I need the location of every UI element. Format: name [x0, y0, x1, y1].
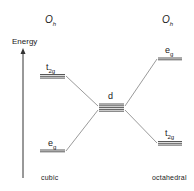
cubic-eg-level	[40, 150, 65, 152]
free-ion-d-label: d	[108, 91, 113, 101]
energy-axis-label: Energy	[12, 37, 37, 46]
energy-axis-arrow	[21, 48, 26, 178]
right-point-group-label: Oh	[162, 14, 173, 27]
cubic-caption: cubic	[41, 174, 58, 181]
octahedral-eg-label: eg	[165, 45, 173, 57]
cubic-t2g-level	[40, 75, 65, 79]
left-point-group-label: Oh	[45, 14, 56, 27]
free-ion-d-level	[99, 104, 124, 111]
cubic-eg-label: eg	[48, 138, 56, 150]
cubic-t2g-label: t2g	[46, 62, 55, 74]
octahedral-caption: octahedral	[152, 174, 187, 181]
octahedral-t2g-label: t2g	[165, 128, 174, 140]
octahedral-t2g-level	[158, 142, 182, 146]
octahedral-eg-level	[158, 58, 182, 60]
correlation-lines	[66, 59, 157, 151]
crystal-field-diagram	[0, 0, 194, 191]
